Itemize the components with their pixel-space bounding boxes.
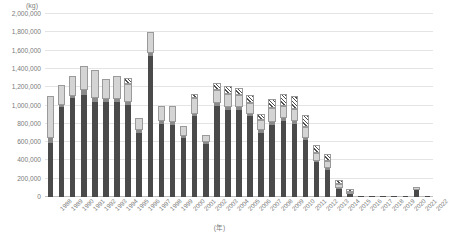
bar-segment-segment-c (303, 127, 309, 137)
bar-column[interactable] (225, 14, 231, 197)
bar-segment-segment-c (81, 67, 87, 89)
bar-column[interactable] (358, 14, 364, 197)
bar-column[interactable] (92, 14, 98, 197)
bar-segment-segment-a (336, 189, 342, 197)
bar-stack (170, 107, 176, 197)
bar-column[interactable] (236, 14, 242, 197)
y-axis-tick-label: 1,200,000 (12, 84, 41, 91)
bar-segment-segment-a (92, 102, 98, 197)
bar-segment-segment-a (281, 121, 287, 197)
bar-column[interactable] (336, 14, 342, 197)
bar-column[interactable] (192, 14, 198, 197)
bar-segment-segment-a (70, 98, 76, 197)
bar-segment-segment-a (414, 190, 420, 197)
bar-column[interactable] (159, 14, 165, 197)
bar-column[interactable] (303, 14, 309, 197)
bar-segment-segment-c (48, 97, 54, 136)
bar-column[interactable] (203, 14, 209, 197)
bar-column[interactable] (125, 14, 131, 197)
bar-column[interactable] (269, 14, 275, 197)
bar-column[interactable] (103, 14, 109, 197)
bar-segment-segment-a (114, 102, 120, 197)
bar-segment-segment-c (236, 95, 242, 106)
bar-stack (225, 87, 231, 197)
bar-column[interactable] (391, 14, 397, 197)
bar-stack (48, 97, 54, 197)
bar-column[interactable] (380, 14, 386, 197)
bar-column[interactable] (325, 14, 331, 197)
y-axis-tick-label: 2,000,000 (12, 11, 41, 18)
bar-stack (336, 181, 342, 197)
bar-column[interactable] (403, 14, 409, 197)
bar-segment-segment-d (314, 146, 320, 153)
bar-column[interactable] (170, 14, 176, 197)
bar-stack (292, 97, 298, 197)
bar-segment-segment-a (292, 124, 298, 197)
bar-segment-segment-c (225, 94, 231, 107)
bar-column[interactable] (48, 14, 54, 197)
bar-segment-segment-a (103, 102, 109, 197)
x-axis-title: (年) (0, 222, 439, 232)
bar-column[interactable] (258, 14, 264, 197)
bar-segment-segment-a (148, 56, 154, 197)
bar-column[interactable] (181, 14, 187, 197)
bar-segment-segment-a (59, 107, 65, 197)
bar-segment-segment-a (269, 125, 275, 197)
bar-stack (247, 96, 253, 197)
bar-stack (214, 84, 220, 197)
y-axis-unit-label: (kg) (26, 2, 38, 9)
bar-stack (281, 95, 287, 197)
bar-segment-segment-d (292, 97, 298, 109)
bar-column[interactable] (114, 14, 120, 197)
bar-segment-segment-a (170, 125, 176, 197)
bar-column[interactable] (59, 14, 65, 197)
y-axis-tick-label: 800,000 (17, 121, 41, 128)
bar-segment-segment-a (258, 133, 264, 197)
bar-segment-segment-c (59, 86, 65, 103)
bar-stack (358, 196, 364, 197)
bar-segment-segment-a (314, 162, 320, 197)
bar-column[interactable] (136, 14, 142, 197)
bar-stack (59, 86, 65, 197)
bar-column[interactable] (369, 14, 375, 197)
bar-segment-segment-a (325, 170, 331, 197)
bar-segment-segment-c (258, 120, 264, 129)
bar-stack (192, 95, 198, 197)
bar-stack (403, 196, 409, 197)
bar-segment-segment-a (380, 196, 386, 197)
bar-column[interactable] (214, 14, 220, 197)
bar-column[interactable] (425, 14, 431, 197)
bar-column[interactable] (314, 14, 320, 197)
bar-stack (203, 136, 209, 197)
bar-segment-segment-a (203, 144, 209, 197)
bar-segment-segment-a (125, 105, 131, 197)
bar-segment-segment-a (192, 116, 198, 197)
bar-column[interactable] (81, 14, 87, 197)
bar-segment-segment-a (136, 133, 142, 197)
bar-segment-segment-c (92, 71, 98, 98)
bar-segment-segment-a (391, 196, 397, 197)
bar-segment-segment-a (81, 95, 87, 197)
bar-stack (125, 79, 131, 197)
bar-segment-segment-c (269, 108, 275, 121)
bar-column[interactable] (70, 14, 76, 197)
y-axis-tick-label: 600,000 (17, 139, 41, 146)
bar-column[interactable] (148, 14, 154, 197)
bar-segment-segment-c (181, 127, 187, 135)
bar-segment-segment-a (225, 110, 231, 197)
bar-segment-segment-c (114, 77, 120, 98)
bar-segment-segment-c (136, 119, 142, 129)
bar-column[interactable] (292, 14, 298, 197)
bar-stack (303, 116, 309, 197)
bar-segment-segment-c (125, 84, 131, 100)
bar-segment-segment-c (292, 109, 298, 120)
bar-column[interactable] (247, 14, 253, 197)
bar-column[interactable] (347, 14, 353, 197)
bar-segment-segment-a (181, 138, 187, 197)
bar-segment-segment-a (247, 116, 253, 197)
bar-column[interactable] (281, 14, 287, 197)
bar-segment-segment-c (70, 77, 76, 94)
bar-column[interactable] (414, 14, 420, 197)
bar-segment-segment-c (148, 33, 154, 51)
